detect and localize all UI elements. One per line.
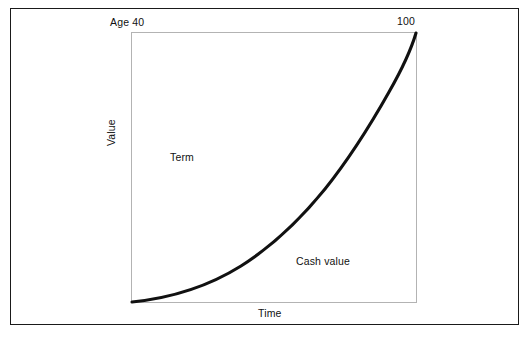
axis-label-age-end: 100 (397, 16, 415, 27)
axis-label-age-start: Age 40 (110, 17, 144, 28)
insurance-value-chart-figure: Age 40 100 Value Time Term Cash value (0, 0, 530, 337)
cash-value-curve (131, 32, 417, 303)
y-axis-label: Value (106, 119, 117, 146)
curve-path (132, 33, 416, 302)
region-label-term: Term (170, 152, 194, 163)
x-axis-label: Time (258, 308, 282, 319)
region-label-cash-value: Cash value (296, 256, 350, 267)
